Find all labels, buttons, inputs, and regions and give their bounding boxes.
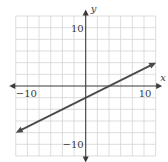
x-axis-arrow-right-icon <box>156 83 162 89</box>
line-arrow-end-icon <box>149 60 158 68</box>
coordinate-plane: −101010−10xy <box>0 0 168 162</box>
axes <box>9 10 162 162</box>
x-axis-arrow-left-icon <box>9 83 15 89</box>
y-tick-label: 10 <box>71 23 84 34</box>
x-axis-label: x <box>160 72 166 83</box>
x-tick-label: −10 <box>16 88 37 99</box>
y-axis-label: y <box>90 3 97 14</box>
y-axis-arrow-down-icon <box>83 156 89 162</box>
y-axis-arrow-up-icon <box>83 10 89 16</box>
x-tick-label: 10 <box>139 88 152 99</box>
y-tick-label: −10 <box>63 139 84 150</box>
